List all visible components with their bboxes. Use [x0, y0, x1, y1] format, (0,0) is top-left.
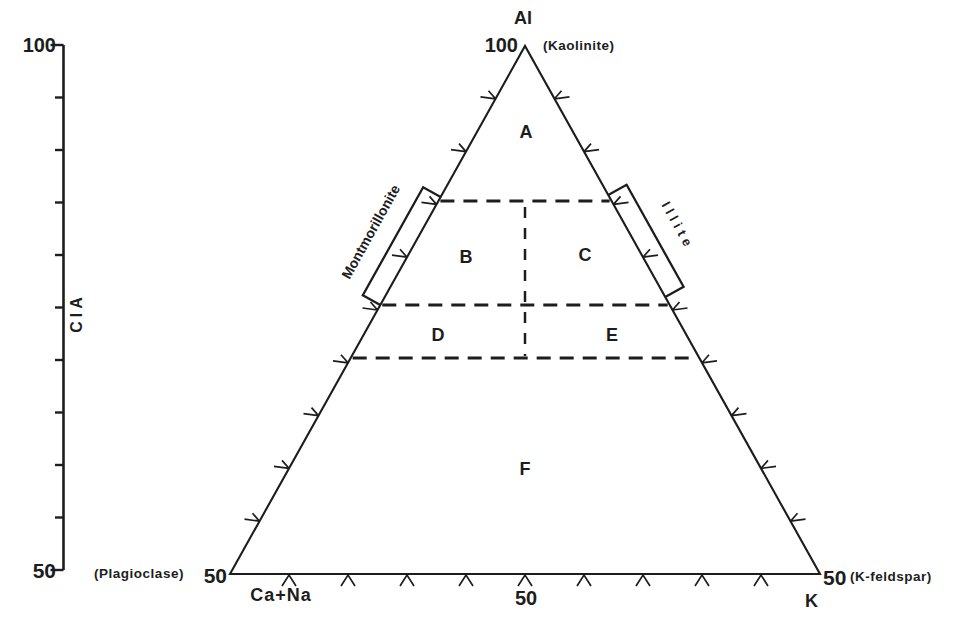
cia-axis-top-label: 100: [23, 34, 56, 56]
apex-value-label: 100: [485, 34, 518, 56]
region-label-5: F: [520, 459, 531, 479]
base-edge-tick: [518, 575, 532, 586]
right-vertex-value-label: 50: [823, 566, 846, 589]
right-edge-tick: [761, 460, 776, 468]
montmorillonite-bracket: [363, 187, 441, 305]
illite-label: Illite: [659, 199, 698, 253]
left-edge-tick: [245, 513, 260, 521]
apex-mineral-label: (Kaolinite): [543, 38, 615, 53]
region-label-3: D: [432, 325, 445, 345]
right-edge-tick: [673, 302, 688, 310]
apex-element-label: Al: [514, 8, 532, 28]
montmorillonite-label: Montmorillonite: [338, 182, 403, 282]
region-label-4: E: [606, 325, 618, 345]
cia-axis-title: CIA: [68, 293, 85, 333]
diagram-canvas: 10050CIAMontmorilloniteIlliteABCDEFAl100…: [0, 0, 957, 628]
right-edge-tick: [791, 513, 806, 521]
right-edge-tick: [614, 196, 629, 204]
base-edge-tick: [754, 575, 768, 586]
base-edge-tick: [400, 575, 414, 586]
right-edge-tick: [732, 408, 747, 416]
base-edge-tick: [459, 575, 473, 586]
left-edge-tick: [304, 408, 319, 416]
right-edge-tick: [555, 91, 570, 99]
left-vertex-mineral-label: (Plagioclase): [94, 566, 184, 581]
left-edge-tick: [274, 460, 289, 468]
base-edge-tick: [636, 575, 650, 586]
base-center-value-label: 50: [515, 587, 537, 609]
left-edge-tick: [392, 249, 407, 257]
left-edge-tick: [481, 91, 496, 99]
left-vertex-element-label: Ca+Na: [250, 585, 312, 605]
left-edge-tick: [422, 196, 437, 204]
base-edge-tick: [341, 575, 355, 586]
left-vertex-value-label: 50: [204, 564, 227, 587]
region-label-2: C: [579, 245, 592, 265]
right-vertex-element-label: K: [805, 591, 819, 611]
left-edge-tick: [451, 144, 466, 152]
right-edge-tick: [702, 355, 717, 363]
region-label-0: A: [520, 122, 533, 142]
region-label-1: B: [460, 247, 473, 267]
right-edge-tick: [643, 249, 658, 257]
base-edge-tick: [577, 575, 591, 586]
right-vertex-mineral-label: (K-feldspar): [850, 569, 932, 584]
cia-axis-bottom-label: 50: [33, 559, 56, 582]
base-edge-tick: [695, 575, 709, 586]
ternary-diagram-figure: 10050CIAMontmorilloniteIlliteABCDEFAl100…: [0, 0, 957, 628]
right-edge-tick: [584, 144, 599, 152]
left-edge-tick: [333, 355, 348, 363]
